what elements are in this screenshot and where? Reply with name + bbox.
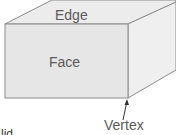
- face-label: Face: [49, 55, 80, 69]
- vertex-label: Vertex: [104, 118, 144, 132]
- cut-off-text: lid: [1, 128, 13, 135]
- arrow-head: [125, 99, 130, 105]
- cuboid-diagram: [0, 0, 176, 135]
- edge-label: Edge: [55, 8, 88, 22]
